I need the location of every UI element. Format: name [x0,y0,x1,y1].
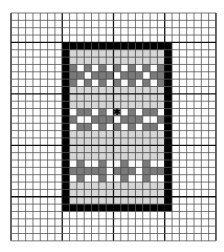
pattern-cell [143,64,150,71]
pattern-cell [77,109,84,116]
pattern-cell [157,153,164,160]
pattern-cell [143,116,150,123]
pattern-cell [99,57,106,64]
pattern-cell [99,167,106,174]
pattern-cell [77,87,84,94]
pattern-cell [157,72,164,79]
pattern-cell [150,116,157,123]
pattern-cell [128,94,135,101]
pattern-cell [135,182,142,189]
pattern-cell [113,50,120,57]
pattern-cell [121,101,128,108]
pattern-cell [128,101,135,108]
pattern-cell [143,182,150,189]
pattern-cell [128,138,135,145]
pattern-cell [113,57,120,64]
pattern-cell [143,145,150,152]
pattern-cell [106,57,113,64]
pattern-cell [70,79,77,86]
pattern-cell [84,175,91,182]
pattern-cell [92,167,99,174]
pattern-cell [92,160,99,167]
pattern-cell [143,197,150,204]
pattern-cell [77,138,84,145]
pattern-cell [121,123,128,130]
pattern-grid: ✱ [0,0,224,252]
pattern-cell [157,64,164,71]
pattern-cell [106,138,113,145]
pattern-cell [121,153,128,160]
pattern-cell [70,182,77,189]
pattern-cell [70,50,77,57]
pattern-cell [106,145,113,152]
pattern-cell [157,109,164,116]
pattern-cell [150,101,157,108]
pattern-cell [157,175,164,182]
pattern-cell [121,79,128,86]
pattern-cell [84,79,91,86]
pattern-cell [92,123,99,130]
pattern-cell [106,175,113,182]
pattern-cell [70,138,77,145]
pattern-cell [128,72,135,79]
pattern-cell [135,50,142,57]
pattern-cell [99,138,106,145]
pattern-cell [70,145,77,152]
pattern-cell [135,197,142,204]
pattern-cell [99,79,106,86]
pattern-cell [84,197,91,204]
pattern-cell [150,189,157,196]
pattern-cell [77,175,84,182]
pattern-cell [157,57,164,64]
pattern-cell [99,131,106,138]
pattern-cell [70,72,77,79]
pattern-cell [92,153,99,160]
pattern-cell [84,160,91,167]
pattern-cell [84,72,91,79]
pattern-cell [70,57,77,64]
pattern-cell [92,182,99,189]
pattern-cell [92,145,99,152]
pattern-cell [150,145,157,152]
pattern-cell [150,153,157,160]
pattern-cell [106,72,113,79]
pattern-cell [150,197,157,204]
pattern-cell [77,160,84,167]
pattern-cell [121,145,128,152]
pattern-cell [121,182,128,189]
grid-lines [11,13,216,241]
pattern-cell [92,138,99,145]
pattern-cell [70,131,77,138]
pattern-cell [135,138,142,145]
pattern-cell [77,145,84,152]
pattern-cell [128,109,135,116]
pattern-cell [143,175,150,182]
pattern-cell [113,138,120,145]
pattern-cell [77,50,84,57]
pattern-cell [128,57,135,64]
pattern-cell [135,94,142,101]
pattern-cell [106,123,113,130]
pattern-cell [113,72,120,79]
pattern-cell [121,175,128,182]
pattern-cell [157,197,164,204]
pattern-cell [70,116,77,123]
pattern-cell [92,197,99,204]
pattern-cell [92,50,99,57]
pattern-cell [70,167,77,174]
pattern-cell [99,116,106,123]
pattern-cell [157,79,164,86]
pattern-cell [106,94,113,101]
pattern-cell [157,50,164,57]
center-marker-icon: ✱ [113,107,121,117]
pattern-cell [150,160,157,167]
pattern-cell [70,153,77,160]
pattern-cell [121,167,128,174]
pattern-cell [150,123,157,130]
pattern-cell [150,182,157,189]
pattern-cell [99,94,106,101]
pattern-cell [99,50,106,57]
pattern-cell [143,101,150,108]
pattern-cell [70,109,77,116]
pattern-cell [84,64,91,71]
